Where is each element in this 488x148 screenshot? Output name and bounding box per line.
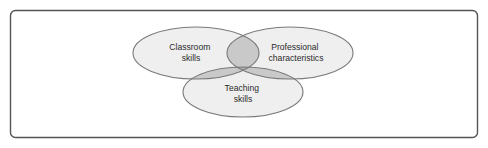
label-teaching-skills-line2: skills: [234, 94, 253, 104]
figure-container: Classroom skills Professional characteri…: [0, 0, 488, 148]
label-professional-characteristics-line1: Professional: [271, 42, 318, 52]
venn-diagram: Classroom skills Professional characteri…: [0, 0, 488, 148]
label-classroom-skills-line1: Classroom: [169, 42, 210, 52]
label-professional-characteristics: Professional characteristics: [269, 42, 324, 63]
label-classroom-skills-line2: skills: [182, 53, 201, 63]
label-professional-characteristics-line2: characteristics: [269, 53, 324, 63]
label-teaching-skills-line1: Teaching: [225, 83, 260, 93]
